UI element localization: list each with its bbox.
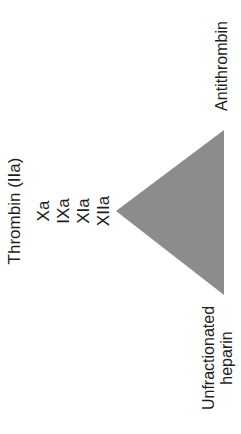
factor-ixa-label: IXa	[55, 198, 72, 224]
thrombin-label: Thrombin (IIa)	[6, 158, 23, 265]
antithrombin-label: Antithrombin	[214, 21, 230, 111]
heparin-label-line2: heparin	[218, 306, 236, 410]
heparin-label-line1: Unfractionated	[200, 306, 218, 410]
factor-xa-label: Xa	[35, 201, 52, 222]
factor-xiia-label: XIIa	[95, 196, 112, 226]
heparin-label: Unfractionated heparin	[200, 306, 236, 410]
factor-xia-label: XIa	[75, 198, 92, 224]
